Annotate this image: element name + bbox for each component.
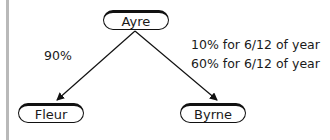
node-byrne-label: Byrne <box>194 107 232 122</box>
arrow-ayre-to-fleur <box>57 31 135 100</box>
edge-label-byrne-line1: 10% for 6/12 of year <box>191 37 320 52</box>
node-fleur: Fleur <box>18 103 84 123</box>
node-ayre: Ayre <box>103 10 169 30</box>
node-ayre-label: Ayre <box>122 14 151 29</box>
node-byrne: Byrne <box>180 103 246 123</box>
edge-label-fleur: 90% <box>44 48 72 63</box>
node-fleur-label: Fleur <box>35 107 68 122</box>
edge-label-byrne-line2: 60% for 6/12 of year <box>191 56 320 71</box>
